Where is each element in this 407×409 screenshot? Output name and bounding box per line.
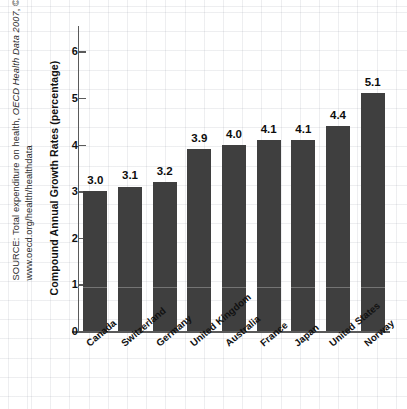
bar-value-label: 4.1 xyxy=(261,123,277,135)
y-tick-label: 2 xyxy=(72,232,78,244)
y-tick-mark xyxy=(79,98,86,99)
source-note-suffix: , © OECD 2007. xyxy=(11,0,21,11)
bar-value-label: 4.4 xyxy=(330,109,346,121)
plot-area: 0123456 3.03.13.23.94.04.14.14.45.1 Cana… xyxy=(78,28,390,331)
bar xyxy=(187,149,211,331)
bar xyxy=(361,93,385,331)
bar-value-label: 3.0 xyxy=(87,174,103,186)
chart-page: SOURCE: Total expenditure on health, OEC… xyxy=(0,0,407,409)
source-note-url: www.oecd.org/health/healthdata xyxy=(22,1,35,281)
bar xyxy=(326,126,350,331)
bar-value-label: 3.1 xyxy=(122,169,138,181)
source-note-publication: OECD Health Data 2007 xyxy=(11,11,21,115)
y-tick-mark xyxy=(79,51,86,52)
bar-value-label: 3.2 xyxy=(157,165,173,177)
y-tick-label: 6 xyxy=(72,45,78,57)
y-tick-label: 5 xyxy=(72,92,78,104)
y-tick-mark xyxy=(79,145,86,146)
bar xyxy=(118,187,142,332)
bar-value-label: 4.1 xyxy=(295,123,311,135)
bar xyxy=(83,191,107,331)
y-tick-label: 4 xyxy=(72,139,78,151)
y-axis-title: Compound Annual Growth Rates (percentage… xyxy=(48,48,60,308)
y-tick-label: 0 xyxy=(72,325,78,337)
y-tick-mark xyxy=(79,331,86,332)
source-note-prefix: SOURCE: Total expenditure on health, xyxy=(11,115,21,280)
bar xyxy=(257,140,281,331)
bar xyxy=(291,140,315,331)
y-tick-label: 3 xyxy=(72,185,78,197)
bar-value-label: 4.0 xyxy=(226,128,242,140)
source-note: SOURCE: Total expenditure on health, OEC… xyxy=(10,1,35,281)
y-tick-label: 1 xyxy=(72,278,78,290)
bar-value-label: 3.9 xyxy=(191,132,207,144)
bar-value-label: 5.1 xyxy=(365,76,381,88)
